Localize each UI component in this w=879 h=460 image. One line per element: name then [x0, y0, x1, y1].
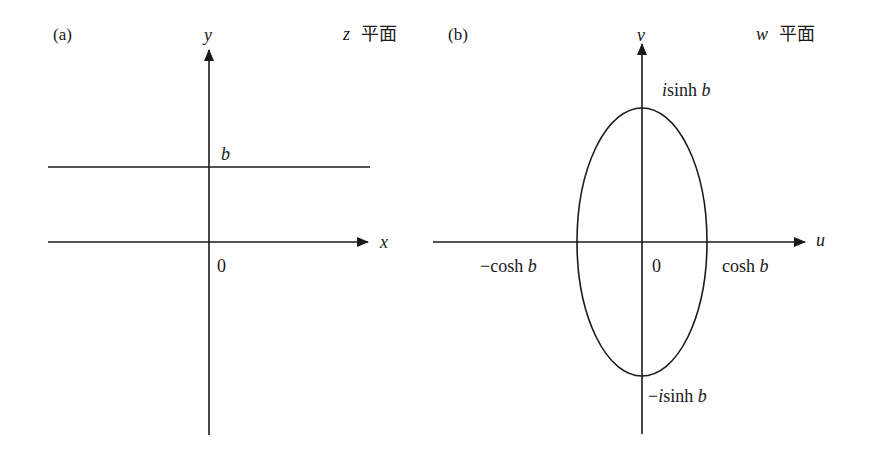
minus-sign: − — [648, 386, 658, 406]
panel-a-graphics — [48, 50, 370, 435]
panel-a-y-axis-label: y — [204, 26, 212, 44]
minus-sign: − — [480, 256, 490, 276]
panel-a-plane-var: z — [343, 24, 350, 44]
param-b: b — [760, 256, 769, 276]
panel-b-top-intercept-label: isinh b — [662, 81, 711, 99]
panel-b-left-intercept-label: −cosh b — [480, 257, 537, 275]
panel-a-label: (a) — [53, 26, 72, 43]
sinh-text: sinh — [663, 386, 698, 406]
panel-b-plane-title: w 平面 — [756, 25, 815, 43]
panel-a-plane-title: z 平面 — [343, 25, 397, 43]
panel-b-label: (b) — [448, 26, 468, 43]
panel-b-origin-label: 0 — [652, 257, 661, 275]
sinh-text: sinh — [667, 80, 702, 100]
panel-a-line-label: b — [221, 145, 230, 163]
panel-a-x-axis-label: x — [380, 233, 388, 251]
diagram-canvas — [0, 0, 879, 460]
panel-a-origin-label: 0 — [217, 257, 226, 275]
panel-b-bottom-intercept-label: −isinh b — [648, 387, 707, 405]
panel-b-u-axis-label: u — [816, 231, 825, 249]
param-b: b — [702, 80, 711, 100]
panel-b-plane-var: w — [756, 24, 768, 44]
panel-b-plane-word: 平面 — [779, 24, 815, 44]
cosh-text: cosh — [722, 256, 760, 276]
cosh-text: cosh — [490, 256, 528, 276]
panel-b-graphics — [433, 44, 805, 434]
panel-b-v-axis-label: v — [637, 26, 645, 44]
panel-b-right-intercept-label: cosh b — [722, 257, 769, 275]
param-b: b — [698, 386, 707, 406]
param-b: b — [528, 256, 537, 276]
panel-a-plane-word: 平面 — [361, 24, 397, 44]
